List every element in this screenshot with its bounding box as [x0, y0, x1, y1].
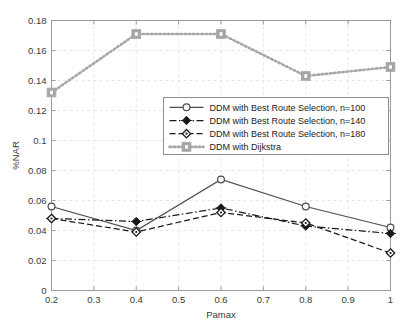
- y-tick-label: 0.08: [28, 165, 47, 176]
- x-tick-label: 1: [388, 294, 393, 305]
- legend-item-4[interactable]: DDM with Dijkstra: [170, 142, 282, 152]
- marker-diamond-open: [220, 211, 222, 213]
- y-tick-label: 0.02: [28, 255, 47, 266]
- marker-circle-open: [48, 203, 55, 210]
- legend-item-label: DDM with Best Route Selection, n=180: [210, 129, 366, 139]
- legend-item-label: DDM with Best Route Selection, n=140: [210, 116, 366, 126]
- y-axis-title: %NAR: [10, 141, 21, 170]
- x-tick-label: 0.9: [342, 294, 355, 305]
- y-tick-label: 0.16: [28, 45, 47, 56]
- marker-square-filled: [185, 145, 188, 149]
- x-tick-label: 0.5: [172, 294, 185, 305]
- marker-circle-open: [218, 176, 225, 183]
- y-tick-label: 0.1: [33, 135, 46, 146]
- legend-item-label: DDM with Dijkstra: [210, 142, 282, 152]
- x-tick-labels: 0.20.30.40.50.60.70.80.91: [45, 294, 393, 305]
- x-tick-label: 0.6: [214, 294, 227, 305]
- y-tick-label: 0.18: [28, 15, 47, 26]
- marker-diamond-open: [305, 222, 307, 224]
- line-chart-canvas: 00.020.040.060.080.10.120.140.160.180.20…: [0, 0, 409, 329]
- y-tick-label: 0.14: [28, 75, 47, 86]
- y-tick-label: 0.04: [28, 225, 47, 236]
- x-tick-label: 0.7: [257, 294, 270, 305]
- marker-diamond-open: [50, 217, 52, 219]
- y-tick-label: 0.06: [28, 195, 47, 206]
- chart-figure: 00.020.040.060.080.10.120.140.160.180.20…: [0, 0, 409, 329]
- marker-square-filled: [50, 91, 53, 95]
- y-tick-label: 0.12: [28, 105, 47, 116]
- x-tick-label: 0.2: [45, 294, 58, 305]
- marker-circle-open: [183, 104, 190, 111]
- marker-circle-open: [302, 203, 309, 210]
- marker-diamond-open: [185, 133, 187, 135]
- legend-item-label: DDM with Best Route Selection, n=100: [210, 103, 366, 113]
- x-tick-label: 0.8: [299, 294, 312, 305]
- marker-square-filled: [304, 74, 307, 78]
- x-axis-title: Pamax: [206, 309, 236, 320]
- marker-diamond-open: [389, 252, 391, 254]
- marker-square-filled: [135, 32, 138, 36]
- x-tick-label: 0.4: [130, 294, 143, 305]
- chart-legend: DDM with Best Route Selection, n=100DDM …: [164, 98, 389, 155]
- marker-square-filled: [220, 32, 223, 36]
- x-tick-label: 0.3: [87, 294, 100, 305]
- marker-diamond-open: [135, 231, 137, 233]
- marker-square-filled: [389, 65, 392, 69]
